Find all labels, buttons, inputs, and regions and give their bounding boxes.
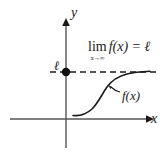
limit-body-label: f(x) = ℓ bbox=[109, 40, 151, 54]
curve-label-leader-line bbox=[111, 87, 120, 92]
y-axis-arrowhead bbox=[62, 18, 70, 26]
y-axis-label: y bbox=[71, 6, 77, 20]
limit-figure: y x ℓ lim x→∞ f(x) = ℓ f(x) bbox=[0, 0, 168, 155]
limit-operator-label: lim bbox=[88, 40, 107, 54]
curve-label-fx: f(x) bbox=[122, 89, 140, 102]
limit-subscript-label: x→∞ bbox=[90, 55, 104, 62]
limit-operator-stack: lim x→∞ bbox=[88, 40, 107, 62]
curve-label-arrowhead bbox=[108, 85, 111, 89]
figure-canvas bbox=[0, 0, 168, 155]
limit-point-dot bbox=[62, 68, 70, 76]
x-axis-label: x bbox=[151, 112, 157, 126]
limit-expression: lim x→∞ f(x) = ℓ bbox=[88, 40, 150, 62]
y-value-label-ell: ℓ bbox=[54, 59, 59, 72]
